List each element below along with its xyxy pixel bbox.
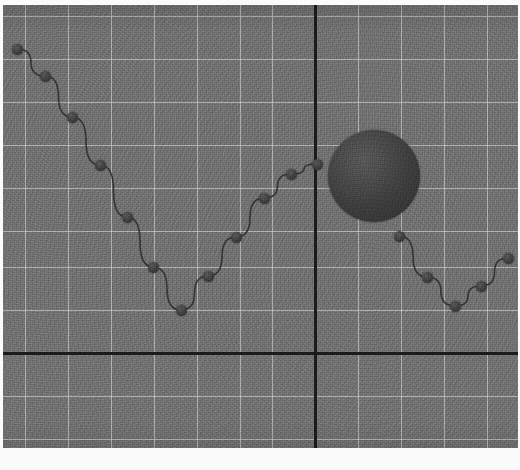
vertical-gridline-1	[68, 5, 69, 448]
panel-edge-shading	[3, 5, 518, 448]
horizontal-gridline-6	[3, 267, 518, 268]
data-point-marker	[12, 44, 23, 55]
y-axis-label	[0, 0, 1, 1]
large-filled-circle	[328, 130, 420, 222]
data-point-marker	[450, 301, 461, 312]
x-axis-label	[0, 0, 1, 1]
vertical-gridline-6	[272, 5, 273, 448]
x-axis-line	[3, 352, 518, 355]
data-point-marker	[203, 271, 214, 282]
data-point-marker	[40, 71, 51, 82]
data-point-marker	[259, 193, 270, 204]
plot-panel	[3, 5, 518, 448]
horizontal-gridline-9	[3, 439, 518, 440]
vertical-gridline-7	[358, 5, 359, 448]
vertical-gridline-4	[197, 5, 198, 448]
vertical-gridline-3	[154, 5, 155, 448]
horizontal-gridline-7	[3, 310, 518, 311]
data-point-marker	[476, 281, 487, 292]
data-point-marker	[503, 253, 514, 264]
data-point-marker	[122, 212, 133, 223]
series-markers	[3, 5, 518, 448]
horizontal-gridline-5	[3, 231, 518, 232]
vertical-gridline-9	[444, 5, 445, 448]
data-point-marker	[148, 262, 159, 273]
chart-title	[0, 0, 1, 1]
horizontal-gridline-8	[3, 396, 518, 397]
y-axis-line	[314, 5, 317, 448]
horizontal-gridline-3	[3, 145, 518, 146]
data-point-marker	[394, 231, 405, 242]
data-point-marker	[231, 232, 242, 243]
vertical-gridline-5	[240, 5, 241, 448]
data-point-marker	[422, 272, 433, 283]
vertical-gridline-2	[111, 5, 112, 448]
horizontal-gridline-0	[3, 16, 518, 17]
vertical-gridline-0	[25, 5, 26, 448]
panel-grain-texture	[3, 5, 518, 448]
horizontal-gridline-4	[3, 188, 518, 189]
series-line	[3, 5, 518, 448]
data-point-marker	[176, 305, 187, 316]
grid	[3, 5, 518, 448]
data-point-marker	[95, 160, 106, 171]
panel-grain-texture-secondary	[3, 5, 518, 448]
vertical-gridline-10	[487, 5, 488, 448]
horizontal-gridline-2	[3, 102, 518, 103]
data-point-marker	[67, 112, 78, 123]
horizontal-gridline-1	[3, 59, 518, 60]
plot-screenshot	[0, 0, 520, 470]
vertical-gridline-8	[401, 5, 402, 448]
data-point-marker	[286, 169, 297, 180]
